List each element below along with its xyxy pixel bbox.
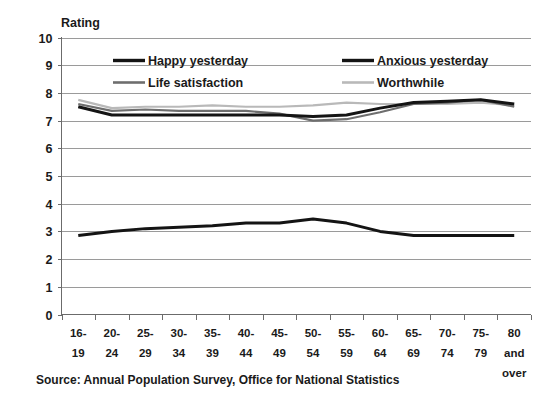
x-tick-label: 16- — [70, 327, 87, 339]
x-tick-label: 20- — [103, 327, 120, 339]
x-tick-label: 24 — [105, 347, 118, 359]
x-tick-label: 19 — [72, 347, 85, 359]
x-tick-label: 55- — [338, 327, 355, 339]
chart-container: Rating 012345678910 16-1920-2425-2930-34… — [0, 0, 555, 415]
legend-label-life-satisfaction: Life satisfaction — [148, 76, 243, 90]
wellbeing-line-chart: Rating 012345678910 16-1920-2425-2930-34… — [0, 0, 555, 415]
x-tick-label: 80 — [508, 327, 521, 339]
y-tick-label: 6 — [46, 142, 53, 156]
x-tick-label: 39 — [206, 347, 219, 359]
x-tick-label: 25- — [137, 327, 154, 339]
y-tick-label: 7 — [46, 115, 53, 129]
legend-label-happy: Happy yesterday — [148, 54, 248, 68]
legend-label-worthwhile: Worthwhile — [377, 76, 444, 90]
x-tick-label: 40- — [238, 327, 255, 339]
y-axis-title: Rating — [61, 16, 100, 30]
x-tick-label: 30- — [171, 327, 188, 339]
x-tick-label: 50- — [305, 327, 322, 339]
x-tick-label: 74 — [441, 347, 454, 359]
x-tick-label: 59 — [340, 347, 353, 359]
y-tick-label: 5 — [46, 170, 53, 184]
x-tick-label: 35- — [204, 327, 221, 339]
x-tick-label: 34 — [172, 347, 185, 359]
x-tick-label: 49 — [273, 347, 286, 359]
source-note: Source: Annual Population Survey, Office… — [36, 373, 400, 387]
x-tick-label: 75- — [472, 327, 489, 339]
x-tick-label: 64 — [374, 347, 387, 359]
x-tick-label: 44 — [240, 347, 253, 359]
y-tick-label: 2 — [46, 253, 53, 267]
x-tick-label: 79 — [474, 347, 487, 359]
y-tick-label: 0 — [46, 309, 53, 323]
x-tick-label: 69 — [407, 347, 420, 359]
x-tick-label: and — [504, 347, 524, 359]
y-tick-label: 10 — [39, 32, 53, 46]
x-tick-label: over — [502, 367, 527, 379]
y-tick-label: 8 — [46, 87, 53, 101]
y-tick-label: 4 — [46, 198, 53, 212]
x-tick-label: 70- — [439, 327, 456, 339]
x-tick-label: 60- — [372, 327, 389, 339]
y-tick-label: 1 — [46, 281, 53, 295]
x-tick-label: 54 — [307, 347, 320, 359]
y-tick-label: 3 — [46, 225, 53, 239]
x-tick-label: 29 — [139, 347, 152, 359]
x-tick-label: 65- — [405, 327, 422, 339]
y-tick-label: 9 — [46, 59, 53, 73]
x-tick-label: 45- — [271, 327, 288, 339]
legend-label-anxious: Anxious yesterday — [377, 54, 488, 68]
